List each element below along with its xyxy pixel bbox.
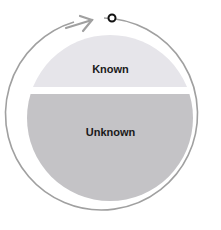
start-marker-icon: [109, 15, 116, 22]
known-region: [0, 30, 221, 87]
unknown-label: Unknown: [0, 126, 221, 138]
unknown-region: [0, 94, 221, 214]
knowledge-cycle-diagram: [0, 0, 221, 230]
known-label: Known: [0, 63, 221, 75]
